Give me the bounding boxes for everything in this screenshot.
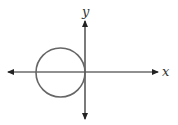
x-axis-label: x: [162, 64, 170, 79]
y-axis-label: y: [81, 4, 90, 19]
coordinate-diagram: y x: [0, 0, 178, 125]
